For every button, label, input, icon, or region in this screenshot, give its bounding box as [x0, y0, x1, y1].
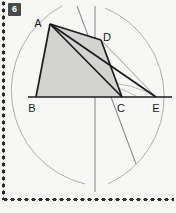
- geometry-figure: A B C D E: [0, 0, 176, 213]
- worksheet-page: 6 A B C: [0, 0, 176, 213]
- vertex-label-b: B: [28, 102, 35, 114]
- vertex-label-c: C: [117, 102, 125, 114]
- vertex-label-d: D: [103, 31, 111, 43]
- vertex-label-e: E: [152, 102, 159, 114]
- vertex-label-a: A: [34, 17, 42, 29]
